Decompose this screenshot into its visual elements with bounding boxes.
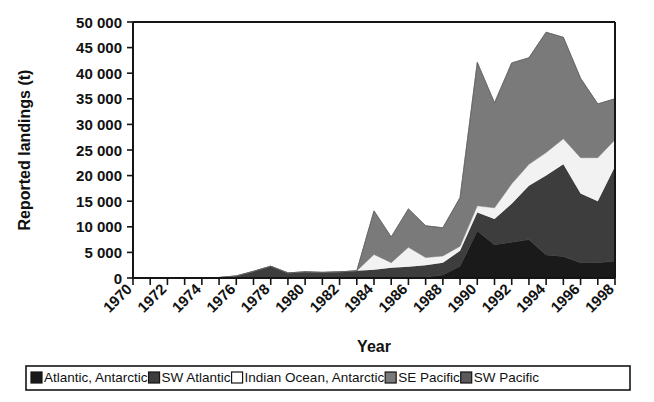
chart-figure: 05 00010 00015 00020 00025 00030 00035 0… (0, 0, 654, 402)
legend-swatch-0 (31, 372, 42, 383)
legend-label-3: SE Pacific (398, 370, 460, 385)
y-tick-label: 45 000 (76, 39, 122, 56)
legend-label-4: SW Pacific (474, 370, 540, 385)
x-tick-label: 1970 (100, 280, 136, 316)
x-tick-label: 1980 (272, 280, 308, 316)
legend-label-1: SW Atlantic (162, 370, 231, 385)
x-axis-ticks (133, 278, 615, 285)
legend: Atlantic, AntarcticSW AtlanticIndian Oce… (26, 366, 630, 390)
x-tick-label: 1974 (168, 280, 204, 316)
x-tick-label: 1972 (134, 280, 170, 316)
x-axis-title: Year (357, 338, 391, 355)
x-tick-label: 1988 (409, 280, 445, 316)
stacked-area-chart: 05 00010 00015 00020 00025 00030 00035 0… (0, 0, 654, 402)
y-tick-label: 15 000 (76, 193, 122, 210)
x-tick-label: 1976 (203, 280, 239, 316)
x-tick-label: 1986 (375, 280, 411, 316)
y-tick-label: 50 000 (76, 14, 122, 31)
plot-areas (133, 32, 615, 278)
legend-swatch-3 (385, 372, 396, 383)
legend-label-2: Indian Ocean, Antarctic (245, 370, 385, 385)
y-tick-label: 35 000 (76, 90, 122, 107)
x-tick-label: 1992 (478, 280, 514, 316)
x-tick-label: 1982 (306, 280, 342, 316)
x-tick-label: 1996 (547, 280, 583, 316)
x-tick-label: 1978 (237, 280, 273, 316)
y-axis-tick-labels: 05 00010 00015 00020 00025 00030 00035 0… (76, 14, 122, 287)
x-tick-label: 1984 (341, 280, 377, 316)
legend-label-0: Atlantic, Antarctic (44, 370, 148, 385)
x-tick-label: 1990 (444, 280, 480, 316)
legend-swatch-2 (232, 372, 243, 383)
y-tick-label: 10 000 (76, 218, 122, 235)
x-axis-tick-labels: 1970197219741976197819801982198419861988… (100, 280, 618, 316)
y-tick-label: 25 000 (76, 142, 122, 159)
x-tick-label: 1994 (513, 280, 549, 316)
x-tick-label: 1998 (582, 280, 618, 316)
legend-swatch-4 (461, 372, 472, 383)
legend-swatch-1 (149, 372, 160, 383)
y-tick-label: 40 000 (76, 65, 122, 82)
y-tick-label: 5 000 (84, 244, 122, 261)
y-axis-title: Reported landings (t) (16, 70, 33, 231)
y-tick-label: 30 000 (76, 116, 122, 133)
y-tick-label: 20 000 (76, 167, 122, 184)
legend-items: Atlantic, AntarcticSW AtlanticIndian Oce… (31, 370, 539, 385)
